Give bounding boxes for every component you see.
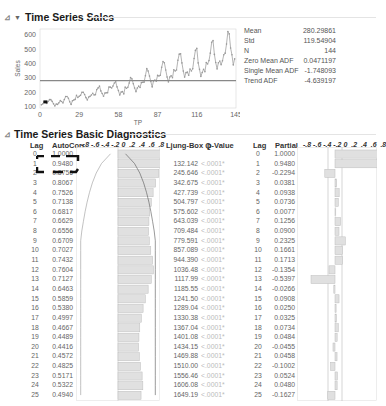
- ljung-box-cell: 1649.19: [160, 390, 198, 400]
- lag-cell: 13: [28, 274, 42, 284]
- autocorr-cell: 0.4489: [44, 332, 73, 342]
- stat-label: Std: [244, 36, 255, 46]
- acf-bar-chart: [76, 147, 160, 401]
- lag-cell: 3: [251, 178, 265, 188]
- lag-cell: 9: [28, 236, 42, 246]
- lag-cell: 15: [28, 294, 42, 304]
- autocorr-cell: 0.6556: [44, 226, 73, 236]
- svg-text:500: 500: [24, 46, 36, 53]
- pvalue-cell: <.0001*: [201, 245, 237, 255]
- lag-cell: 4: [28, 188, 42, 198]
- autocorr-cell: 0.8067: [44, 178, 73, 188]
- stat-label: Single Mean ADF: [244, 66, 298, 76]
- lag-cell: 18: [28, 323, 42, 333]
- lag-cell: 20: [28, 342, 42, 352]
- pvalue-cell: <.0001*: [201, 159, 237, 169]
- autocorr-cell: 0.6817: [44, 207, 73, 217]
- lag-cell: 8: [251, 226, 265, 236]
- ljung-box-cell: 709.484: [160, 226, 198, 236]
- svg-text:300: 300: [24, 74, 36, 81]
- lag-cell: 10: [28, 245, 42, 255]
- pvalue-cell: <.0001*: [201, 255, 237, 265]
- header-divider: [90, 17, 376, 18]
- pvalue-cell: <.0001*: [201, 236, 237, 246]
- lag-cell: 4: [251, 188, 265, 198]
- stat-value: -4.639197: [304, 76, 336, 86]
- lag-cell: 15: [251, 294, 265, 304]
- lag-cell: 18: [251, 323, 265, 333]
- svg-text:87: 87: [154, 111, 162, 118]
- header-divider: [130, 134, 376, 135]
- pvalue-cell: <.0001*: [201, 178, 237, 188]
- lag-cell: 17: [251, 313, 265, 323]
- time-series-plot[interactable]: 1002003004005006000295887116145TPSales: [0, 26, 240, 126]
- ljung-box-cell: 1241.50: [160, 294, 198, 304]
- pvalue-cell: <.0001*: [201, 216, 237, 226]
- lag-cell: 22: [28, 361, 42, 371]
- ljung-box-cell: 1289.04: [160, 303, 198, 313]
- pvalue-cell: <.0001*: [201, 361, 237, 371]
- partial-column: 1.00000.9480-0.22940.03810.09380.07360.0…: [265, 149, 295, 400]
- autocorr-cell: 0.4572: [44, 351, 73, 361]
- ljung-box-cell: 504.797: [160, 197, 198, 207]
- ljung-box-cell: 944.390: [160, 255, 198, 265]
- lag-cell: 21: [251, 351, 265, 361]
- ljung-box-cell: 1469.88: [160, 351, 198, 361]
- selection-marquee[interactable]: [36, 155, 80, 175]
- partial-cell: 0.0524: [265, 371, 295, 381]
- partial-cell: 0.2325: [265, 236, 295, 246]
- autocorr-cell: 0.4825: [44, 361, 73, 371]
- autocorr-cell: 0.7027: [44, 245, 73, 255]
- pvalue-cell: <.0001*: [201, 371, 237, 381]
- autocorr-cell: 0.5171: [44, 371, 73, 381]
- lag-cell: 7: [28, 216, 42, 226]
- ljung-box-cell: 245.646: [160, 168, 198, 178]
- ljung-box-cell: 1606.08: [160, 380, 198, 390]
- lag-cell: 16: [251, 303, 265, 313]
- partial-cell: -0.1002: [265, 361, 295, 371]
- pvalue-cell: <.0001*: [201, 265, 237, 275]
- partial-cell: -0.1354: [265, 265, 295, 275]
- autocorr-cell: 0.5859: [44, 294, 73, 304]
- lag-cell: 5: [28, 197, 42, 207]
- lag-cell: 16: [28, 303, 42, 313]
- lag-cell: 9: [251, 236, 265, 246]
- autocorr-cell: 0.5380: [44, 303, 73, 313]
- stat-label: Trend ADF: [244, 76, 278, 86]
- ljung-box-cell: 575.602: [160, 207, 198, 217]
- partial-cell: 0.0325: [265, 313, 295, 323]
- partial-cell: 0.1713: [265, 255, 295, 265]
- partial-cell: 0.0480: [265, 380, 295, 390]
- ljung-box-cell: 1434.15: [160, 342, 198, 352]
- lag-cell: 24: [251, 380, 265, 390]
- lag-cell: 1: [251, 159, 265, 169]
- stat-value: 280.29861: [303, 26, 336, 36]
- stat-row: Trend ADF-4.639197: [244, 76, 336, 86]
- pvalue-cell: [201, 149, 237, 159]
- disclosure-triangle-icon[interactable]: ⊿: [4, 13, 11, 22]
- pvalue-cell: <.0001*: [201, 188, 237, 198]
- stat-value: -1.748093: [304, 66, 336, 76]
- partial-cell: 0.1256: [265, 216, 295, 226]
- ljung-box-cell: 1185.55: [160, 284, 198, 294]
- lag-cell: 7: [251, 216, 265, 226]
- lag-column: 0123456789101112131415161718192021222324…: [28, 149, 42, 400]
- pvalue-column: <.0001*<.0001*<.0001*<.0001*<.0001*<.000…: [201, 149, 237, 400]
- red-triangle-menu-icon[interactable]: ▼: [14, 14, 21, 21]
- ljung-box-cell: 1367.04: [160, 323, 198, 333]
- lag-cell: 19: [28, 332, 42, 342]
- svg-text:100: 100: [24, 103, 36, 110]
- autocorr-cell: 0.5322: [44, 380, 73, 390]
- stat-row: Std119.54904: [244, 36, 336, 46]
- pvalue-cell: <.0001*: [201, 380, 237, 390]
- ljung-box-cell: 132.142: [160, 159, 198, 169]
- lag-cell: 10: [251, 245, 265, 255]
- svg-text:400: 400: [24, 60, 36, 67]
- pvalue-cell: <.0001*: [201, 313, 237, 323]
- lag-cell: 22: [251, 361, 265, 371]
- lag-cell: 24: [28, 380, 42, 390]
- disclosure-triangle-icon[interactable]: ⊿: [4, 130, 11, 139]
- ljung-box-cell: 643.039: [160, 216, 198, 226]
- svg-text:0: 0: [38, 111, 42, 118]
- stat-row: Mean280.29861: [244, 26, 336, 36]
